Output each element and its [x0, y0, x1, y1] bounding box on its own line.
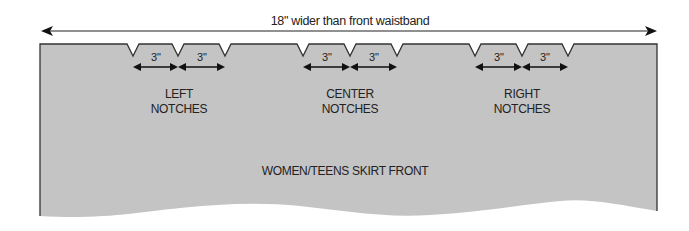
left-notches-label: LEFT NOTCHES	[139, 87, 219, 117]
label-line: CENTER	[310, 87, 390, 102]
label-line: RIGHT	[482, 87, 562, 102]
label-line: NOTCHES	[482, 102, 562, 117]
skirt-front-piece	[40, 44, 657, 217]
dimension-label: 3"	[530, 51, 560, 63]
piece-label: WOMEN/TEENS SKIRT FRONT	[240, 164, 450, 179]
dimension-label: 3"	[187, 51, 217, 63]
center-notches-label: CENTER NOTCHES	[310, 87, 390, 117]
dimension-label: 3"	[484, 51, 514, 63]
label-line: NOTCHES	[310, 102, 390, 117]
dimension-label: 3"	[359, 51, 389, 63]
dimension-label: 3"	[312, 51, 342, 63]
width-annotation: 18" wider than front waistband	[250, 14, 450, 29]
dimension-label: 3"	[141, 51, 171, 63]
right-notches-label: RIGHT NOTCHES	[482, 87, 562, 117]
label-line: NOTCHES	[139, 102, 219, 117]
label-line: LEFT	[139, 87, 219, 102]
